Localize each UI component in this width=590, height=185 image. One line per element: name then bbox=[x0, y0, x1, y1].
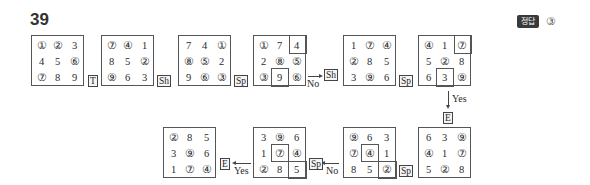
grid-9: 3 ⑨ 6 1 ⑦ ④ ② 8 5 bbox=[253, 127, 306, 178]
grid-cell: ⑨ bbox=[453, 69, 470, 86]
grid-cell: ⑥ bbox=[288, 69, 305, 86]
grid-cell: 5 bbox=[420, 53, 437, 70]
grid-cell: 9 bbox=[66, 69, 83, 86]
arrow-head-icon bbox=[319, 74, 323, 78]
grid-cell: ② bbox=[345, 53, 362, 70]
grid-cell: 9 bbox=[180, 69, 197, 86]
grid-cell: 1 bbox=[345, 37, 362, 54]
grid-cell: ④ bbox=[119, 37, 136, 54]
grid-cell: ② bbox=[255, 161, 272, 178]
grid-cell: 5 bbox=[420, 161, 437, 178]
grid-cell: ④ bbox=[361, 145, 378, 162]
grid-cell: 8 bbox=[49, 69, 66, 86]
label-yes-2: Yes bbox=[234, 165, 249, 176]
grid-7: 6 3 ⑨ ④ 1 ⑦ 5 ② 8 bbox=[418, 127, 471, 178]
grid-cell: 3 bbox=[436, 129, 453, 146]
grid-cell: ⑨ bbox=[345, 129, 362, 146]
grid-cell: 4 bbox=[33, 53, 50, 70]
operation-sh-2: Sh bbox=[324, 69, 338, 81]
operation-sp-4: Sp bbox=[309, 158, 323, 170]
grid-cell: 4 bbox=[288, 37, 305, 54]
grid-cell: 6 bbox=[420, 129, 437, 146]
grid-cell: ⑧ bbox=[180, 53, 197, 70]
answer-badge: 정답 bbox=[517, 15, 539, 28]
grid-cell: ⑦ bbox=[361, 37, 378, 54]
grid-cell: ⑦ bbox=[33, 69, 50, 86]
grid-cell: 8 bbox=[103, 53, 120, 70]
grid-cell: 5 bbox=[49, 53, 66, 70]
grid-cell: ⑦ bbox=[271, 145, 288, 162]
grid-cell: 1 bbox=[255, 145, 272, 162]
grid-cell: ⑧ bbox=[271, 53, 288, 70]
grid-5: 1 ⑦ ④ ② 8 5 3 ⑨ 6 bbox=[343, 35, 396, 86]
grid-cell: ④ bbox=[288, 145, 305, 162]
grid-cell: 5 bbox=[361, 161, 378, 178]
grid-3: 7 4 ① ⑧ ⑤ 2 9 ⑥ ③ bbox=[178, 35, 231, 86]
grid-cell: ⑨ bbox=[103, 69, 120, 86]
grid-cell: 1 bbox=[436, 37, 453, 54]
grid-cell: 3 bbox=[255, 129, 272, 146]
grid-cell: 5 bbox=[198, 129, 215, 146]
grid-cell: 8 bbox=[181, 129, 198, 146]
grid-cell: 2 bbox=[255, 53, 272, 70]
grid-6: ④ 1 ⑦ 5 ② 8 6 3 ⑨ bbox=[418, 35, 471, 86]
grid-cell: ④ bbox=[198, 161, 215, 178]
grid-cell: 3 bbox=[136, 69, 153, 86]
operation-t: T bbox=[88, 75, 98, 87]
grid-cell: ④ bbox=[378, 37, 395, 54]
grid-cell: ② bbox=[378, 161, 395, 178]
grid-cell: 3 bbox=[345, 69, 362, 86]
grid-cell: ② bbox=[436, 53, 453, 70]
grid-10: ② 8 5 3 ⑨ 6 1 ⑦ ④ bbox=[163, 127, 216, 178]
arrow-left bbox=[324, 163, 339, 164]
grid-cell: ⑦ bbox=[103, 37, 120, 54]
operation-sp-1: Sp bbox=[234, 75, 248, 87]
grid-cell: 5 bbox=[288, 161, 305, 178]
grid-2: ⑦ ④ 1 8 5 ② ⑨ 6 3 bbox=[101, 35, 154, 86]
grid-cell: ⑥ bbox=[66, 53, 83, 70]
arrow-head-icon bbox=[446, 105, 450, 109]
grid-cell: ⑦ bbox=[453, 37, 470, 54]
grid-cell: ⑦ bbox=[345, 145, 362, 162]
grid-cell: 8 bbox=[345, 161, 362, 178]
grid-cell: ⑤ bbox=[196, 53, 213, 70]
grid-cell: 6 bbox=[198, 145, 215, 162]
arrow-left bbox=[235, 163, 251, 164]
label-yes-1: Yes bbox=[452, 93, 467, 104]
answer-value: ③ bbox=[546, 15, 556, 28]
grid-cell: 5 bbox=[378, 53, 395, 70]
grid-cell: 6 bbox=[378, 69, 395, 86]
grid-cell: 9 bbox=[271, 69, 288, 86]
operation-sp-2: Sp bbox=[399, 75, 413, 87]
label-no-2: No bbox=[326, 165, 338, 176]
grid-cell: 8 bbox=[453, 161, 470, 178]
grid-cell: ⑦ bbox=[181, 161, 198, 178]
grid-cell: 6 bbox=[119, 69, 136, 86]
arrow-down bbox=[448, 91, 449, 106]
label-no-1: No bbox=[307, 78, 319, 89]
question-number: 39 bbox=[30, 10, 49, 30]
grid-cell: 7 bbox=[271, 37, 288, 54]
grid-cell: ② bbox=[49, 37, 66, 54]
grid-cell: ⑨ bbox=[453, 129, 470, 146]
grid-cell: 1 bbox=[378, 145, 395, 162]
grid-cell: ③ bbox=[255, 69, 272, 86]
grid-cell: 5 bbox=[119, 53, 136, 70]
grid-cell: ④ bbox=[420, 145, 437, 162]
grid-4: ① 7 4 2 ⑧ ⑤ ③ 9 ⑥ bbox=[253, 35, 306, 86]
grid-cell: ⑥ bbox=[196, 69, 213, 86]
grid-cell: ① bbox=[213, 37, 230, 54]
grid-cell: 3 bbox=[165, 145, 182, 162]
grid-cell: 3 bbox=[436, 69, 453, 86]
grid-cell: 1 bbox=[165, 161, 182, 178]
grid-cell: ④ bbox=[420, 37, 437, 54]
grid-cell: ② bbox=[165, 129, 182, 146]
grid-cell: ② bbox=[436, 161, 453, 178]
grid-cell: ⑨ bbox=[181, 145, 198, 162]
grid-cell: ⑨ bbox=[271, 129, 288, 146]
grid-1: ① ② 3 4 5 ⑥ ⑦ 8 9 bbox=[31, 35, 84, 86]
grid-cell: ① bbox=[33, 37, 50, 54]
grid-cell: 3 bbox=[66, 37, 83, 54]
operation-sh-1: Sh bbox=[157, 75, 171, 87]
operation-sp-3: Sp bbox=[399, 165, 413, 177]
